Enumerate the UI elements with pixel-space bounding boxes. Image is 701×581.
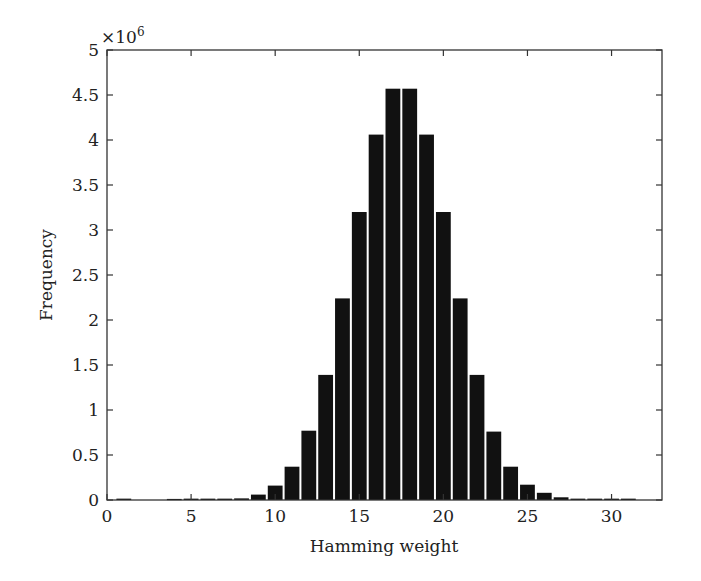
- bar-weight-24: [503, 467, 518, 500]
- bar-weight-21: [453, 298, 468, 500]
- y-tick-label: 5: [88, 40, 99, 60]
- y-tick-label: 3.5: [72, 175, 99, 195]
- x-axis-label: Hamming weight: [310, 536, 459, 556]
- bars-group: [116, 89, 635, 500]
- y-multiplier-label: ×106: [101, 25, 145, 47]
- y-tick-label: 2: [88, 310, 99, 330]
- histogram-chart: 00.511.522.533.544.55 051015202530 ×106 …: [0, 0, 701, 581]
- y-tick-label: 0.5: [72, 445, 99, 465]
- y-axis-label: Frequency: [36, 229, 56, 321]
- y-tick-label: 3: [88, 220, 99, 240]
- bar-weight-15: [352, 212, 367, 500]
- bar-weight-22: [470, 375, 485, 500]
- bar-weight-16: [369, 135, 384, 500]
- y-axis: 00.511.522.533.544.55: [72, 40, 662, 510]
- y-tick-label: 4.5: [72, 85, 99, 105]
- plot-frame: [107, 50, 662, 500]
- bar-weight-19: [419, 135, 434, 500]
- y-tick-label: 1: [88, 400, 99, 420]
- bar-weight-23: [486, 432, 501, 500]
- x-tick-label: 0: [102, 506, 113, 526]
- y-tick-label: 2.5: [72, 265, 99, 285]
- x-tick-label: 15: [348, 506, 370, 526]
- bar-weight-26: [537, 493, 552, 500]
- bar-weight-9: [251, 495, 266, 500]
- bar-weight-13: [318, 375, 333, 500]
- y-tick-label: 1.5: [72, 355, 99, 375]
- y-tick-label: 0: [88, 490, 99, 510]
- bar-weight-17: [386, 89, 401, 500]
- x-tick-label: 25: [517, 506, 539, 526]
- bar-weight-14: [335, 298, 350, 500]
- bar-weight-11: [285, 467, 300, 500]
- bar-weight-12: [301, 431, 316, 500]
- y-tick-label: 4: [88, 130, 99, 150]
- bar-weight-18: [402, 89, 417, 500]
- x-tick-label: 20: [433, 506, 455, 526]
- x-tick-label: 5: [186, 506, 197, 526]
- bar-weight-20: [436, 212, 451, 500]
- x-tick-label: 10: [264, 506, 286, 526]
- x-tick-label: 30: [601, 506, 623, 526]
